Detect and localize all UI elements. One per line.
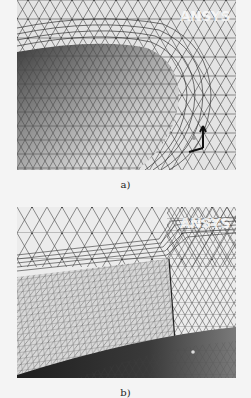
mesh-drawing-b [17, 207, 236, 378]
caption-a: a) [0, 179, 251, 190]
caption-b: b) [0, 387, 251, 398]
ansys-logo: ANSYS [180, 8, 230, 24]
ansys-logo: ANSYS [180, 215, 230, 231]
mesh-image-a: ANSYS [17, 0, 236, 170]
mesh-drawing-a [17, 0, 236, 170]
mesh-image-b: ANSYS [17, 207, 236, 378]
